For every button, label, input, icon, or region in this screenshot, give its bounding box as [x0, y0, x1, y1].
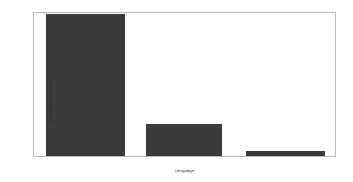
x-tick-mark [184, 156, 185, 157]
figure-canvas: 103 102 101 Pure P [0, 0, 353, 182]
y-minor-tick [33, 48, 34, 49]
x-tick-mark [285, 156, 286, 157]
y-minor-tick [33, 129, 34, 130]
plot-area: 103 102 101 Pure P [33, 12, 336, 157]
x-axis-title: Language [33, 168, 336, 173]
y-tick-mark [33, 156, 34, 157]
x-tick-mark [85, 156, 86, 157]
y-tick-mark [33, 94, 34, 95]
y-tick-mark [33, 28, 34, 29]
y-minor-tick [33, 143, 34, 144]
y-minor-tick [33, 150, 34, 151]
bar-pure-java [146, 124, 222, 156]
y-minor-tick [33, 136, 34, 137]
y-minor-tick [33, 113, 34, 114]
y-minor-tick [33, 17, 34, 18]
y-minor-tick [33, 37, 34, 38]
y-minor-tick [33, 81, 34, 82]
y-minor-tick [33, 65, 34, 66]
y-minor-tick [33, 103, 34, 104]
y-minor-tick [33, 73, 34, 74]
y-minor-tick [33, 88, 34, 89]
bar-pure-python [46, 14, 125, 156]
y-axis-title: Time taken (log scale) [46, 30, 57, 157]
y-minor-tick [33, 121, 34, 122]
y-minor-tick [33, 57, 34, 58]
